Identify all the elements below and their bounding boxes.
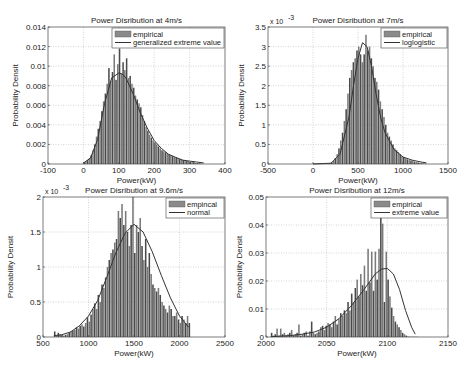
histogram-bar — [67, 334, 69, 337]
histogram-bar — [355, 288, 357, 337]
histogram-bar — [115, 80, 117, 164]
x-tick-label: 2150 — [439, 339, 457, 348]
histogram-bar — [364, 266, 366, 337]
histogram-bar — [165, 309, 167, 337]
histogram-bar — [358, 47, 360, 164]
histogram-bar — [391, 308, 393, 337]
histogram-bar — [113, 54, 115, 164]
histogram-bar — [172, 316, 174, 337]
legend-swatch-empirical — [374, 201, 390, 207]
histogram-bar — [124, 70, 126, 164]
histogram-bar — [362, 62, 364, 164]
histogram-bar — [165, 152, 167, 164]
histogram-bar — [147, 131, 149, 164]
histogram-bar — [161, 302, 163, 337]
histogram-bar — [371, 58, 373, 164]
x-tick-label: 1500 — [125, 339, 143, 348]
y-tick-label: 0.01 — [30, 62, 46, 71]
histogram-bar — [387, 280, 389, 337]
histogram-bar — [385, 125, 387, 164]
histogram-bar — [94, 303, 96, 337]
x-axis-label: Power(kW) — [117, 176, 157, 185]
histogram-bar — [378, 249, 380, 337]
histogram-bar — [137, 99, 139, 164]
histogram-bar — [85, 323, 87, 337]
histogram-bar — [349, 310, 351, 337]
histogram-bar — [353, 302, 355, 337]
histogram-bar — [174, 316, 176, 337]
histogram-bar — [83, 327, 85, 338]
histogram-bar — [138, 232, 140, 337]
legend-label-fit: extreme value — [392, 208, 439, 217]
histogram-bar — [68, 333, 70, 337]
subplot-title: Power Disribution at 4m/s — [91, 16, 182, 25]
histogram-bar — [351, 294, 353, 337]
histogram-bar — [305, 331, 307, 337]
y-exponent-label: x 10 — [270, 18, 283, 25]
histogram-bar — [156, 292, 158, 338]
legend-swatch-empirical — [115, 31, 131, 37]
histogram-bar — [54, 331, 56, 337]
y-exponent-power: -3 — [63, 184, 69, 191]
histogram-bar — [401, 156, 403, 164]
histogram-bar — [158, 288, 160, 337]
y-tick-label: 0.004 — [26, 121, 47, 130]
histogram-bar — [189, 323, 191, 337]
subplot-4: 200020502100215000.010.020.030.040.05Pow… — [235, 186, 457, 358]
histogram-bar — [72, 331, 74, 337]
histogram-bar — [149, 253, 151, 337]
histogram-bar — [342, 133, 344, 164]
histogram-bar — [360, 54, 362, 164]
legend: empiricalgeneralized extreme value — [112, 28, 224, 48]
histogram-bar — [144, 121, 146, 164]
histogram-bar — [360, 274, 362, 337]
histogram-bar — [150, 274, 152, 337]
x-tick-label: 1000 — [394, 166, 412, 175]
histogram-bar — [353, 62, 355, 164]
histogram-bar — [79, 326, 81, 337]
histogram-bar — [125, 211, 127, 337]
histogram-bar — [161, 150, 163, 164]
histogram-bar — [362, 285, 364, 337]
histogram-bar — [129, 246, 131, 337]
y-axis-label: Probability Densit — [237, 64, 246, 127]
y-tick-label: 0.04 — [248, 221, 264, 230]
histogram-bar — [123, 225, 125, 337]
x-tick-label: 0 — [81, 166, 86, 175]
y-tick-label: 0 — [260, 333, 265, 342]
histogram-bar — [322, 326, 324, 337]
histogram-bar — [386, 252, 388, 337]
histogram-bar — [121, 74, 123, 164]
histogram-bar — [333, 322, 335, 337]
histogram-bar — [404, 334, 406, 337]
y-axis-label: Probability Densit — [11, 64, 20, 127]
histogram-bar — [384, 302, 386, 337]
histogram-bar — [396, 324, 398, 337]
y-tick-label: 0.012 — [26, 43, 47, 52]
y-tick-label: 0 — [37, 333, 42, 342]
histogram-bar — [369, 282, 371, 337]
histogram-bar — [402, 333, 404, 337]
y-tick-label: 0 — [42, 160, 47, 169]
y-tick-label: 0.02 — [248, 277, 264, 286]
histogram-bar — [108, 68, 110, 164]
histogram-bar — [382, 224, 384, 337]
histogram-bar — [400, 330, 402, 337]
histogram-bar — [92, 309, 94, 337]
y-tick-label: 1.5 — [255, 101, 267, 110]
histogram-bar — [349, 78, 351, 164]
y-tick-label: 0.008 — [26, 82, 47, 91]
histogram-bar — [177, 158, 179, 164]
histogram-bar — [289, 333, 291, 337]
histogram-bar — [170, 309, 172, 337]
histogram-bar — [344, 121, 346, 164]
histogram-bar — [315, 334, 317, 337]
histogram-bar — [383, 117, 385, 164]
histogram-bar — [163, 306, 165, 338]
histogram-bar — [347, 94, 349, 164]
y-tick-label: 2 — [37, 193, 42, 202]
histogram-bar — [327, 323, 329, 337]
x-tick-label: 1000 — [80, 339, 98, 348]
histogram-bar — [367, 249, 369, 337]
subplot-title: Power Disribution at 9.6m/s — [85, 186, 183, 195]
